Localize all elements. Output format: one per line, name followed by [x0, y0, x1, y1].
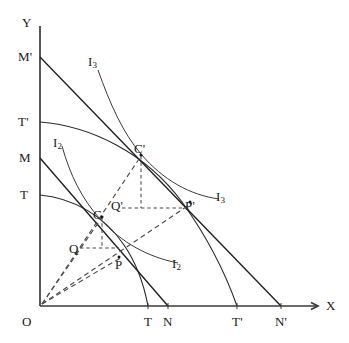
price-line-MprimeNprime [40, 57, 281, 306]
x-tick-label-t: T [144, 315, 152, 328]
y-tick-label-t: T [20, 188, 28, 201]
trade-triangle-CprimeQprimePprime [122, 156, 190, 208]
point-label-p-prime: P' [185, 199, 195, 212]
point-label-c: C [93, 208, 102, 221]
y-tick-label-t-prime: T' [18, 115, 29, 128]
trade-equilibrium-figure: Y X O M' T' M T T N T' N' I3 I3 I2 I2 C … [0, 0, 349, 343]
ray-O-to-C [42, 216, 103, 304]
x-tick-label-n: N [163, 315, 173, 328]
origin-label: O [22, 315, 32, 328]
x-axis-label: X [326, 299, 336, 312]
diagram-canvas [0, 0, 349, 343]
y-tick-label-m: M [19, 151, 31, 164]
y-axis-label: Y [22, 16, 32, 29]
curve-label-i3-right: I3 [216, 190, 225, 205]
curve-label-i3-right-subscript: 3 [221, 195, 226, 205]
price-line-MprimeNprime-path [40, 57, 281, 306]
ray-O-to-Pprime [42, 203, 192, 304]
x-tick-label-n-prime: N' [275, 315, 287, 328]
curve-label-i2-right: I2 [172, 257, 181, 272]
point-label-p: P [115, 258, 122, 271]
origin-rays-group [42, 156, 192, 304]
curve-label-i2-right-subscript: 2 [177, 262, 182, 272]
point-label-q-prime: Q' [111, 199, 123, 212]
curve-label-i2-left-subscript: 2 [58, 141, 63, 151]
curve-label-i2-left: I2 [53, 136, 62, 151]
curve-label-i3-top: I3 [88, 55, 97, 70]
curve-label-i3-top-subscript: 3 [93, 60, 98, 70]
point-label-q: Q [69, 242, 79, 255]
x-tick-label-t-prime: T' [232, 315, 243, 328]
y-tick-label-m-prime: M' [18, 50, 32, 63]
point-label-c-prime: C' [134, 142, 145, 155]
ray-O-to-P [42, 257, 122, 304]
